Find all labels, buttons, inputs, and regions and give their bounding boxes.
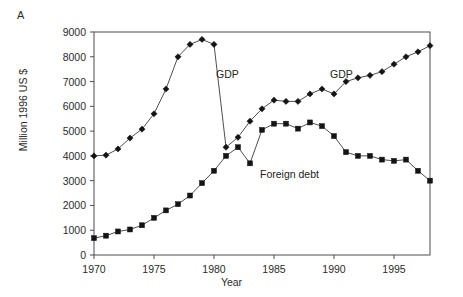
plot-frame [94, 32, 430, 255]
data-point-foreign-debt [92, 236, 97, 241]
y-tick-label: 6000 [38, 100, 86, 112]
data-point-gdp [295, 98, 301, 104]
data-point-foreign-debt [380, 157, 385, 162]
x-tick-label: 1975 [142, 263, 165, 275]
data-point-foreign-debt [308, 120, 313, 125]
data-point-foreign-debt [392, 158, 397, 163]
x-tick-label: 1980 [202, 263, 225, 275]
y-tick-label: 9000 [38, 26, 86, 38]
data-point-foreign-debt [200, 181, 205, 186]
data-point-gdp [283, 98, 289, 104]
data-point-foreign-debt [272, 121, 277, 126]
x-tick-label: 1985 [262, 263, 285, 275]
data-point-foreign-debt [176, 202, 181, 207]
data-point-foreign-debt [224, 153, 229, 158]
data-point-foreign-debt [188, 193, 193, 198]
data-point-foreign-debt [416, 168, 421, 173]
data-point-foreign-debt [428, 178, 433, 183]
data-point-foreign-debt [248, 161, 253, 166]
data-point-foreign-debt [368, 153, 373, 158]
data-point-gdp [103, 152, 109, 158]
data-point-foreign-debt [152, 215, 157, 220]
data-point-gdp [415, 49, 421, 55]
data-point-foreign-debt [404, 157, 409, 162]
y-tick-label: 0 [38, 249, 86, 261]
data-series [91, 36, 433, 240]
y-tick-label: 3000 [38, 175, 86, 187]
data-point-foreign-debt [104, 233, 109, 238]
data-point-foreign-debt [320, 124, 325, 129]
data-point-gdp [211, 41, 217, 47]
x-tick-label: 1970 [82, 263, 105, 275]
data-point-foreign-debt [284, 121, 289, 126]
data-point-gdp [403, 54, 409, 60]
data-point-gdp [391, 61, 397, 67]
data-point-gdp [271, 97, 277, 103]
data-point-gdp [379, 69, 385, 75]
data-point-foreign-debt [128, 227, 133, 232]
series-line-foreign-debt [94, 122, 430, 238]
x-tick-label: 1995 [382, 263, 405, 275]
y-tick-label: 1000 [38, 224, 86, 236]
y-tick-label: 4000 [38, 150, 86, 162]
data-point-gdp [355, 75, 361, 81]
data-point-foreign-debt [332, 134, 337, 139]
data-point-gdp [427, 43, 433, 49]
data-point-foreign-debt [164, 208, 169, 213]
figure-panel-a: A Million 1996 US $ Year 010002000300040… [0, 0, 463, 297]
annotation-foreign-debt: Foreign debt [260, 168, 319, 180]
data-point-gdp [163, 86, 169, 92]
x-tick-label: 1990 [322, 263, 345, 275]
data-point-gdp [367, 72, 373, 78]
annotation-gdp-left: GDP [216, 68, 239, 80]
y-tick-label: 8000 [38, 51, 86, 63]
data-point-gdp [319, 86, 325, 92]
data-point-gdp [199, 36, 205, 42]
x-axis-label: Year [0, 276, 463, 288]
data-point-foreign-debt [236, 145, 241, 150]
y-tick-label: 5000 [38, 125, 86, 137]
data-point-foreign-debt [260, 127, 265, 132]
annotation-gdp-right: GDP [330, 68, 353, 80]
y-tick-label: 7000 [38, 76, 86, 88]
data-point-foreign-debt [344, 150, 349, 155]
series-line-gdp [94, 39, 430, 155]
y-tick-label: 2000 [38, 199, 86, 211]
data-point-foreign-debt [140, 223, 145, 228]
data-point-gdp [307, 91, 313, 97]
data-point-foreign-debt [212, 168, 217, 173]
panel-letter: A [17, 9, 25, 21]
data-point-foreign-debt [116, 229, 121, 234]
y-axis-label: Million 1996 US $ [17, 45, 29, 175]
data-point-foreign-debt [356, 153, 361, 158]
axis-ticks [90, 32, 394, 259]
data-point-foreign-debt [296, 126, 301, 131]
data-point-gdp [91, 153, 97, 159]
